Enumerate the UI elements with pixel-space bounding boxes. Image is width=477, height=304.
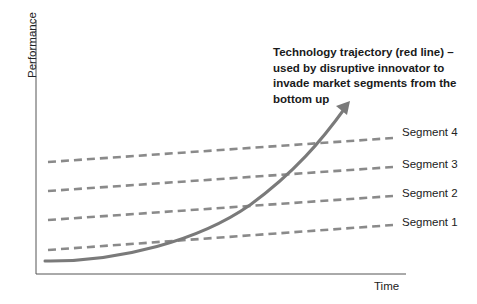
y-axis-label: Performance (26, 18, 38, 78)
segment-3-line (48, 167, 393, 191)
segment-4-line (48, 138, 393, 162)
segment-4-label: Segment 4 (402, 126, 458, 138)
x-axis-label: Time (374, 280, 399, 292)
trajectory-annotation: Technology trajectory (red line) – used … (273, 45, 456, 107)
segment-1-label: Segment 1 (402, 216, 458, 228)
segment-2-line (48, 196, 393, 220)
segment-2-label: Segment 2 (402, 187, 458, 199)
segment-1-line (48, 225, 393, 250)
segment-3-label: Segment 3 (402, 158, 458, 170)
